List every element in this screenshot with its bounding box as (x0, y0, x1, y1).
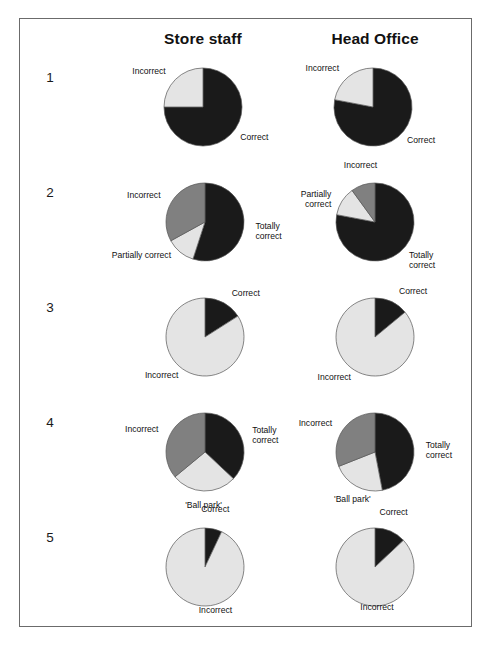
pie-slice-label: Partially correct (0, 189, 331, 209)
pie-slice-label: 'Ball park' (312, 494, 392, 504)
pie-slice-label: Totally correct (426, 440, 452, 460)
pie-slice-label: Correct (399, 286, 427, 296)
row-number-5: 5 (40, 530, 60, 545)
pie-slice-label: Correct (175, 504, 255, 514)
row-number-3: 3 (40, 300, 60, 315)
pie-slice-label: Totally correct (255, 221, 281, 241)
pie-slice-label: Incorrect (360, 602, 393, 612)
pie-slice-label: Incorrect (0, 63, 339, 73)
pie-slice-label: Correct (240, 132, 268, 142)
pie-slice-label: Partially correct (0, 250, 171, 260)
pie-slice-label: Incorrect (199, 605, 232, 615)
pie-slice-label: Incorrect (0, 418, 332, 428)
pie-slice-label: Correct (354, 507, 434, 517)
figure-canvas: Store staff Head Office 1 2 3 4 5 Correc… (0, 0, 495, 647)
pie-slice (166, 528, 244, 606)
pie-slice-label: Totally correct (252, 425, 278, 445)
column-header-head-office: Head Office (315, 30, 435, 48)
pie-slice-label: Totally correct (409, 250, 435, 270)
pie-slice-label: Correct (232, 288, 260, 298)
pie-slice-label: Incorrect (320, 160, 400, 170)
column-header-store-staff: Store staff (143, 30, 263, 48)
pie-slice-label: Incorrect (0, 372, 351, 382)
pie-slice-label: Correct (407, 135, 435, 145)
